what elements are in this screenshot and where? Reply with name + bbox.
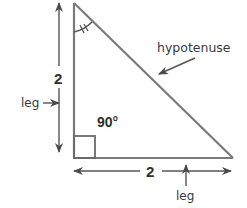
- bottom-leg-label: leg: [176, 189, 194, 203]
- hypotenuse-pointer-arrow: [159, 58, 195, 74]
- horizontal-length-label: 2: [146, 163, 154, 180]
- hypotenuse-label: hypotenuse: [157, 40, 231, 55]
- vertical-length-label: 2: [54, 70, 62, 87]
- right-angle-label: 90°: [97, 114, 118, 130]
- triangle: [73, 3, 233, 158]
- angle-arc-mark: [74, 22, 92, 33]
- right-angle-mark: [74, 136, 95, 158]
- left-leg-label: leg: [21, 96, 39, 110]
- right-triangle-diagram: 2 leg 90° hypotenuse 2 leg: [0, 0, 247, 208]
- hypotenuse-line: [74, 3, 233, 158]
